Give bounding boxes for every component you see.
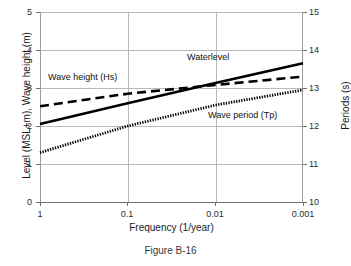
ytick-label-right-12: 12 (309, 122, 329, 131)
gridline-x-0p01 (216, 12, 217, 202)
x-tick-0p01 (215, 202, 216, 206)
y-tick-right-12 (303, 126, 307, 127)
y-tick-left-0 (36, 202, 40, 203)
y-tick-right-15 (303, 12, 307, 13)
xtick-label-0p001: 0.001 (283, 210, 323, 219)
gridline-y-1 (41, 164, 302, 165)
x-tick-1 (40, 202, 41, 206)
gridline-y-3 (41, 88, 302, 89)
y-tick-left-3 (36, 88, 40, 89)
y-axis-title-left: Level (MSL+m), Wave height (m) (21, 11, 32, 201)
gridline-y-4 (41, 50, 302, 51)
y-tick-left-2 (36, 126, 40, 127)
ytick-label-right-11: 11 (309, 160, 329, 169)
y-tick-left-5 (36, 12, 40, 13)
figure-caption: Figure B-16 (0, 245, 341, 256)
ytick-label-right-14: 14 (309, 46, 329, 55)
ytick-label-right-13: 13 (309, 84, 329, 93)
ytick-label-right-10: 10 (309, 198, 329, 207)
gridline-y-5 (41, 12, 302, 13)
x-axis-title: Frequency (1/year) (40, 222, 303, 233)
series-annotation-wave-period: Wave period (Tp) (208, 110, 277, 120)
series-annotation-wave-height: Wave height (Hs) (48, 72, 117, 82)
xtick-label-0p01: 0.01 (195, 210, 235, 219)
ytick-label-right-15: 15 (309, 8, 329, 17)
x-tick-0p1 (127, 202, 128, 206)
xtick-label-1: 1 (20, 210, 60, 219)
y-tick-right-13 (303, 88, 307, 89)
x-axis-line (40, 202, 303, 203)
xtick-label-0p1: 0.1 (107, 210, 147, 219)
gridline-x-0p1 (128, 12, 129, 202)
series-annotation-waterlevel: Waterlevel (187, 52, 229, 62)
y-tick-left-4 (36, 50, 40, 51)
plot-area (40, 12, 303, 202)
y-axis-title-right: Periods (s) (340, 41, 351, 171)
gridline-y-2 (41, 126, 302, 127)
y-tick-right-11 (303, 164, 307, 165)
y-tick-right-14 (303, 50, 307, 51)
y-tick-left-1 (36, 164, 40, 165)
y-tick-right-10 (303, 202, 307, 203)
